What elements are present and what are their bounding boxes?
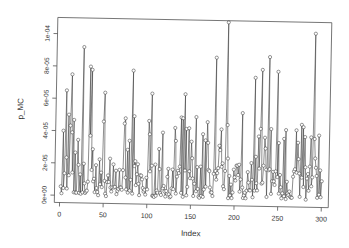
data-point [140,174,143,177]
data-point [154,194,157,197]
x-tick-label: 150 [184,213,196,220]
data-point [171,168,174,171]
data-point [177,171,180,174]
data-point [218,144,221,147]
data-point [158,167,161,170]
data-point [230,196,233,199]
data-point [113,185,116,188]
data-point [140,178,143,181]
data-point [217,167,220,170]
data-point [62,129,65,132]
data-point [247,181,250,184]
data-point [161,131,164,134]
data-point [107,180,110,183]
data-point [67,113,70,116]
data-point [216,172,219,175]
data-point [123,122,126,125]
data-point [254,155,257,158]
data-point [65,187,68,190]
data-point [174,139,177,142]
data-point [208,186,211,189]
y-tick-label: 2e-05 [41,154,48,171]
data-point [129,178,132,181]
data-point [199,165,202,168]
data-point [133,164,136,167]
data-point [135,173,138,176]
data-point [208,169,211,172]
data-point [232,168,235,171]
data-point [277,70,280,73]
data-point [99,171,102,174]
data-point [174,126,177,129]
x-tick-label: 250 [272,215,284,222]
data-point [121,168,124,171]
data-point [233,176,236,179]
data-point [178,165,181,168]
data-point [283,137,286,140]
data-point [148,170,151,173]
data-point [124,117,127,120]
data-point [98,158,101,161]
data-point [284,197,287,200]
chart-container: 050100150200250300 0e+002e-054e-056e-058… [0,0,349,248]
data-point [285,180,288,183]
data-point [137,182,140,185]
data-point [128,189,131,192]
data-point [308,165,311,168]
data-point [193,182,196,185]
data-point [132,69,135,72]
data-point [158,147,161,150]
data-point [288,190,291,193]
data-point [174,192,177,195]
data-point [126,148,129,151]
y-tick-label: 6e-05 [42,89,49,106]
data-point [201,195,204,198]
data-point [222,188,225,191]
data-point [248,189,251,192]
data-point [62,186,65,189]
data-point [296,141,299,144]
data-series [59,18,327,202]
data-point [114,169,117,172]
data-point [302,185,305,188]
data-point [250,178,253,181]
data-point [118,168,121,171]
data-point [100,185,103,188]
data-point [310,136,313,139]
data-point [188,170,191,173]
x-tick-label: 50 [99,211,107,218]
data-point [241,111,244,114]
data-point [302,126,305,129]
data-point [91,68,94,71]
data-point [71,131,74,134]
data-point [145,188,148,191]
data-point [60,192,63,195]
data-point [115,193,118,196]
data-point [204,185,207,188]
data-point [190,140,193,143]
data-point [181,195,184,198]
data-point [226,157,229,160]
data-point [236,173,239,176]
data-point [85,189,88,192]
data-point [128,139,131,142]
line-plot: 050100150200250300 0e+002e-054e-056e-058… [0,0,349,248]
data-point [207,141,210,144]
data-point [196,187,199,190]
data-point [90,168,93,171]
data-point [220,165,223,168]
data-point [250,161,253,164]
data-point [254,76,257,79]
data-point [83,45,86,48]
data-point [175,175,178,178]
data-point [215,56,218,59]
data-point [228,174,231,177]
data-point [258,167,261,170]
data-point [144,193,147,196]
data-point [319,196,322,199]
data-point [257,135,260,138]
y-tick-label: 1e-04 [43,25,50,42]
data-point [86,180,89,183]
data-point [246,170,249,173]
data-point [108,157,111,160]
